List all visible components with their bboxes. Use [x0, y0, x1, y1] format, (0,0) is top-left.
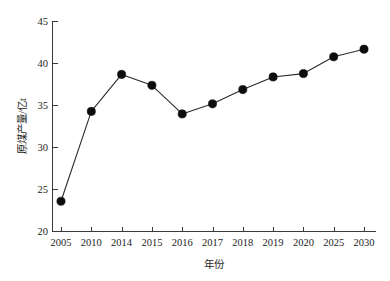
x-tick-label: 2019 [263, 237, 284, 248]
x-tick-label: 2015 [141, 237, 162, 248]
data-point-marker: 2014: 38.7 [118, 70, 126, 78]
x-tick-label: 2017 [202, 237, 223, 248]
data-point-marker: 2010: 34.3 [87, 107, 95, 115]
y-tick-label: 25 [38, 184, 49, 195]
data-point-marker: 2030: 41.7 [360, 45, 368, 53]
x-tick-label: 2014 [111, 237, 133, 248]
x-tick-label: 2025 [323, 237, 344, 248]
data-point-marker: 2020: 38.8 [299, 69, 307, 77]
data-point-marker: 2019: 38.4 [269, 73, 277, 81]
chart-figure: 45 40 35 30 25 20 2005201020142015201620… [0, 0, 390, 281]
data-point-marker: 2015: 37.4 [148, 81, 156, 89]
data-point-marker: 2005: 23.6 [57, 197, 65, 205]
x-tick-label: 2016 [172, 237, 193, 248]
x-tick-label: 2010 [81, 237, 102, 248]
y-tick-label: 35 [38, 100, 49, 111]
y-tick-label: 45 [38, 16, 49, 27]
x-axis-tick-labels: 2005201020142015201620172018201920202025… [51, 237, 375, 248]
data-point-marker: 2025: 40.8 [330, 53, 338, 61]
data-point-marker: 2018: 36.9 [239, 85, 247, 93]
x-tick-label: 2020 [293, 237, 314, 248]
data-point-marker: 2017: 35.2 [208, 100, 216, 108]
line-chart-canvas: 45 40 35 30 25 20 2005201020142015201620… [0, 0, 390, 281]
y-axis-title: 原煤产量/亿t [16, 98, 28, 154]
x-tick-label: 2030 [354, 237, 375, 248]
x-tick-label: 2018 [232, 237, 253, 248]
y-tick-label: 20 [38, 226, 49, 237]
y-tick-label: 30 [38, 142, 49, 153]
x-tick-label: 2005 [51, 237, 72, 248]
y-tick-label: 40 [38, 58, 49, 69]
x-axis-title: 年份 [204, 258, 225, 270]
data-point-marker: 2016: 34 [178, 110, 186, 118]
